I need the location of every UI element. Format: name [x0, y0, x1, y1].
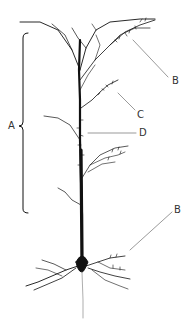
label-b-bottom: B	[174, 205, 181, 215]
leader-line-b-top	[133, 40, 168, 77]
soma	[76, 256, 88, 272]
axon	[82, 272, 83, 318]
bracket-a	[19, 33, 28, 213]
label-a: A	[8, 121, 15, 131]
leader-line-b-bottom	[130, 212, 172, 250]
leader-line-c	[118, 93, 135, 110]
neuron-diagram	[0, 0, 191, 324]
label-c: C	[137, 110, 144, 120]
label-b-top: B	[172, 76, 179, 86]
basal-dendrites	[26, 266, 78, 286]
label-d: D	[139, 128, 147, 138]
